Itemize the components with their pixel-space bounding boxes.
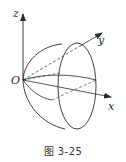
x-axis bbox=[23, 80, 111, 97]
cross-section-ellipse bbox=[58, 43, 96, 129]
paraboloid-upper-outline bbox=[23, 44, 62, 80]
figure-caption: 图 3-25 bbox=[0, 143, 126, 158]
x-axis-label: x bbox=[108, 101, 114, 112]
origin-label: O bbox=[11, 75, 20, 86]
z-axis-label: z bbox=[13, 8, 19, 19]
inner-curve-front bbox=[23, 75, 96, 80]
y-axis-label: y bbox=[98, 35, 104, 46]
